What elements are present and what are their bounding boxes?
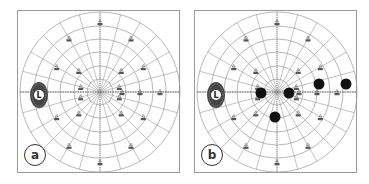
test-point (318, 65, 323, 71)
scotoma-dot (341, 79, 352, 90)
blind-spot-icon: L (207, 82, 225, 108)
blind-spot-icon: L (30, 82, 48, 108)
svg-text:L: L (36, 91, 41, 100)
panel-label-a: a (24, 144, 46, 166)
scotoma-dot (284, 88, 295, 99)
test-point (141, 115, 146, 121)
visual-field-panel-a: L a (17, 10, 180, 173)
scotoma-dot (256, 88, 267, 99)
test-point (54, 65, 59, 71)
test-point (54, 115, 59, 121)
scotoma-dot (314, 79, 325, 90)
panel-label-b: b (201, 144, 223, 166)
test-point (141, 65, 146, 71)
test-point (318, 115, 323, 121)
visual-field-panel-b: L b (194, 10, 357, 173)
svg-text:L: L (213, 91, 218, 100)
scotoma-dot (270, 112, 281, 123)
test-point (231, 65, 236, 71)
test-point (231, 115, 236, 121)
